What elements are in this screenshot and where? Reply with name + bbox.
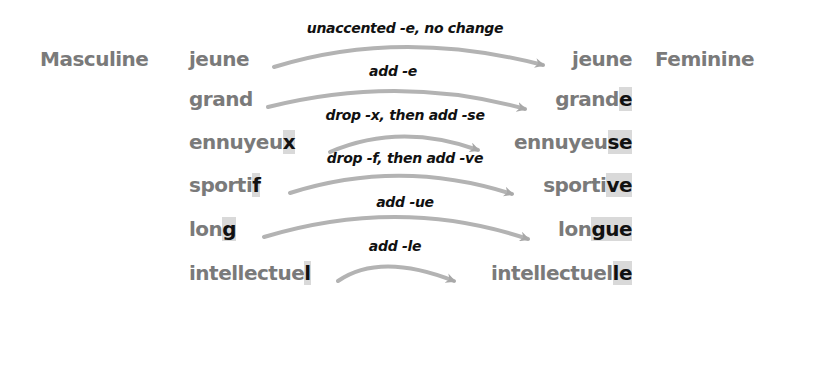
rule-label: add -ue	[376, 194, 434, 210]
word-stem: grand	[189, 87, 253, 111]
masculine-word: ennuyeux	[189, 130, 295, 154]
feminine-word: sportive	[543, 173, 632, 197]
word-stem: sporti	[189, 173, 252, 197]
feminine-word: grande	[555, 87, 632, 111]
feminine-header: Feminine	[655, 47, 754, 71]
word-ending: le	[613, 261, 632, 285]
feminine-word: jeune	[572, 47, 632, 71]
word-stem: sporti	[543, 173, 606, 197]
masculine-word: grand	[189, 87, 253, 111]
word-stem: lon	[558, 217, 591, 241]
word-stem: lon	[189, 217, 222, 241]
arrow-row-5	[264, 217, 528, 239]
word-ending: l	[304, 261, 310, 285]
word-stem: jeune	[572, 47, 632, 71]
feminine-word: intellectuelle	[491, 261, 632, 285]
word-ending: gue	[591, 217, 632, 241]
word-stem: ennuyeu	[514, 130, 608, 154]
feminine-word: longue	[558, 217, 632, 241]
word-ending: g	[222, 217, 236, 241]
rule-label: drop -x, then add -se	[325, 107, 484, 123]
word-ending: f	[252, 173, 260, 197]
masculine-header: Masculine	[40, 47, 148, 71]
word-ending: e	[619, 87, 632, 111]
arrow-row-6	[338, 267, 454, 282]
feminine-word: ennuyeuse	[514, 130, 632, 154]
word-stem: grand	[555, 87, 619, 111]
word-stem: ennuyeu	[189, 130, 283, 154]
rule-label: drop -f, then add -ve	[327, 150, 483, 166]
arrow-row-4	[290, 176, 512, 194]
masculine-word: jeune	[189, 47, 249, 71]
rule-label: add -le	[369, 238, 421, 254]
rule-label: unaccented -e, no change	[307, 20, 503, 36]
word-ending: se	[608, 130, 632, 154]
word-stem: intellectue	[189, 261, 304, 285]
masculine-word: sportif	[189, 173, 260, 197]
rule-label: add -e	[369, 63, 417, 79]
word-ending: x	[283, 130, 295, 154]
masculine-word: long	[189, 217, 236, 241]
word-stem: jeune	[189, 47, 249, 71]
masculine-word: intellectuel	[189, 261, 311, 285]
word-stem: intellectuel	[491, 261, 613, 285]
word-ending: ve	[606, 173, 632, 197]
